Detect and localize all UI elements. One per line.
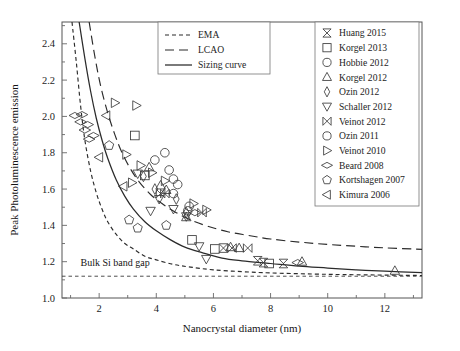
data-point [279,259,288,268]
y-tick-label: 1.6 [42,184,55,195]
y-tick-label: 1.8 [42,147,55,158]
data-point [198,208,207,217]
x-axis-title: Nanocrystal diameter (nm) [183,322,302,335]
data-point [390,266,399,274]
data-point [203,205,211,214]
y-tick-label: 2.0 [42,111,55,122]
x-tick-label: 8 [268,303,273,314]
annotation-label: Bulk Si band gap [81,257,150,268]
marker-legend: Huang 2015Korgel 2013Hobbie 2012Korgel 2… [315,22,419,206]
legend-label: Sizing curve [198,59,246,70]
photoluminescence-figure: 246810121.01.21.41.61.82.02.22.4Nanocrys… [0,0,460,351]
legend-label: Huang 2015 [339,27,386,38]
legend-label: LCAO [198,44,224,55]
data-point [94,153,102,162]
data-point [88,132,100,138]
legend-label: Kortshagen 2007 [339,174,405,185]
y-tick-label: 2.2 [42,75,55,86]
data-point [253,256,262,265]
y-tick-label: 1.2 [42,256,55,267]
data-point [82,121,94,127]
annotations: Bulk Si band gap [81,257,150,268]
x-tick-label: 12 [380,303,391,314]
data-point [111,98,119,107]
data-point [173,180,182,189]
legend-label: Veinot 2010 [339,145,386,156]
data-point [173,194,179,205]
x-tick-label: 6 [211,303,216,314]
y-tick-label: 1.0 [42,293,55,304]
data-point [128,178,136,187]
data-point [243,244,252,253]
series-schaller-2012 [133,170,211,264]
data-point [161,148,170,157]
y-axis-title: Peak Photoluminescence emission [8,84,20,236]
data-point [79,127,91,133]
data-point [202,255,211,263]
data-point [169,175,178,184]
x-tick-label: 10 [322,303,333,314]
legend-label: Ozin 2012 [339,86,379,97]
x-tick-label: 4 [154,303,160,314]
legend-label: Beard 2008 [339,160,384,171]
data-point [154,196,163,204]
legend-label: Hobbie 2012 [339,57,389,68]
data-point [101,111,109,120]
data-point [146,207,155,215]
data-point [165,166,174,175]
series-beard-2008 [69,112,303,266]
data-point [75,119,87,125]
data-point [151,156,160,165]
data-point [105,141,114,150]
legend-label: Veinot 2012 [339,116,386,127]
chart-canvas: 246810121.01.21.41.61.82.02.22.4Nanocrys… [0,0,460,351]
data-point [133,223,142,232]
y-tick-label: 2.4 [42,38,56,49]
data-point [297,257,306,265]
data-point [131,131,140,140]
data-point [125,215,134,224]
legend-label: Ozin 2011 [339,130,379,141]
y-tick-label: 1.4 [42,220,56,231]
x-tick-label: 2 [97,303,102,314]
data-point [190,199,198,208]
data-point [137,161,145,170]
legend-label: Kimura 2006 [339,189,390,200]
curve-legend: EMALCAOSizing curve [158,22,270,74]
legend-label: Korgel 2012 [339,72,387,83]
data-point [211,245,220,254]
legend-label: Schaller 2012 [339,101,392,112]
data-point [133,101,141,110]
legend-label: EMA [198,29,219,40]
legend-label: Korgel 2013 [339,42,387,53]
data-point [162,221,171,230]
